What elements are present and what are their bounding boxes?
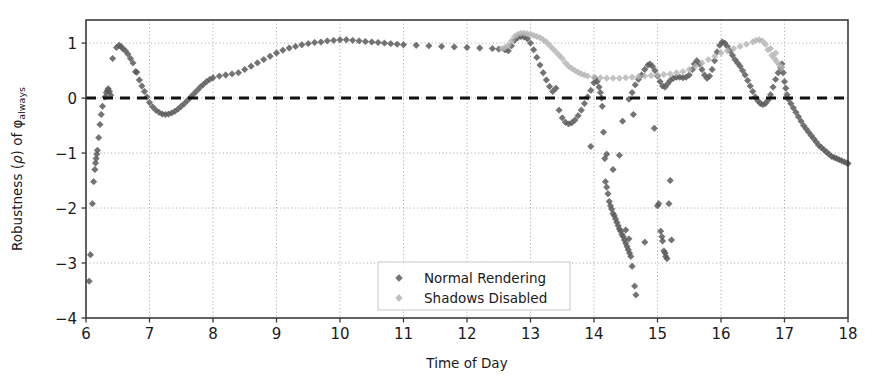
y-axis-label-prefix: Robustness ( bbox=[9, 164, 25, 251]
x-tick-label: 15 bbox=[648, 325, 667, 343]
y-axis-label-subscript: always bbox=[16, 87, 27, 120]
legend-label-shadows-disabled: Shadows Disabled bbox=[424, 290, 547, 306]
y-tick-label: 0 bbox=[67, 90, 77, 108]
y-tick-label: −1 bbox=[55, 145, 77, 163]
y-tick-label: −4 bbox=[55, 310, 77, 328]
x-tick-label: 17 bbox=[775, 325, 794, 343]
x-tick-label: 7 bbox=[145, 325, 155, 343]
x-tick-label: 18 bbox=[838, 325, 857, 343]
y-tick-label: −3 bbox=[55, 255, 77, 273]
legend-label-normal-rendering: Normal Rendering bbox=[424, 270, 546, 286]
x-axis-label: Time of Day bbox=[425, 355, 507, 371]
chart-legend[interactable]: Normal RenderingShadows Disabled bbox=[378, 262, 570, 310]
x-tick-label: 12 bbox=[457, 325, 476, 343]
y-tick-label: −2 bbox=[55, 200, 77, 218]
y-tick-label: 1 bbox=[67, 35, 77, 53]
x-tick-label: 10 bbox=[330, 325, 349, 343]
y-axis-label-mid: ) of bbox=[9, 129, 25, 156]
x-tick-label: 14 bbox=[584, 325, 603, 343]
x-tick-label: 9 bbox=[272, 325, 282, 343]
x-tick-label: 6 bbox=[81, 325, 91, 343]
scatter-plot: 6789101112131415161718 10−1−2−3−4 Time o… bbox=[0, 0, 888, 384]
y-axis-label-phi: φ bbox=[9, 120, 25, 129]
x-tick-label: 8 bbox=[208, 325, 218, 343]
x-tick-label: 16 bbox=[711, 325, 730, 343]
x-tick-label: 11 bbox=[394, 325, 413, 343]
chart-figure: 6789101112131415161718 10−1−2−3−4 Time o… bbox=[0, 0, 888, 384]
x-tick-label: 13 bbox=[521, 325, 540, 343]
